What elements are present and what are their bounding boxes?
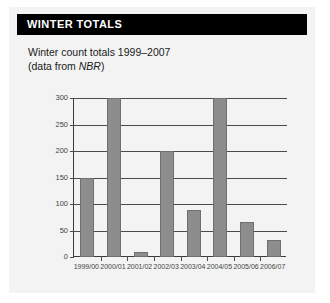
x-tick-mark (234, 256, 235, 261)
y-tick-label: 200 (55, 147, 68, 155)
x-tick-label: 2005/06 (233, 263, 258, 270)
x-tick-mark (127, 256, 128, 261)
x-tick-mark (260, 256, 261, 261)
y-tick-label: 50 (60, 227, 68, 235)
x-tick-label: 2000/01 (100, 263, 125, 270)
plot-frame: 050100150200250300 (73, 98, 286, 257)
bar-group (74, 98, 101, 257)
bar (160, 151, 174, 257)
bars-layer (74, 98, 287, 257)
figure-header-bar: WINTER TOTALS (17, 14, 307, 35)
bar (213, 98, 227, 257)
bar-group (181, 98, 208, 257)
bar-group (234, 98, 261, 257)
bar (134, 252, 148, 257)
caption-line-title: Winter count totals 1999–2007 (28, 45, 298, 59)
caption-source-name: NBR (79, 60, 101, 72)
figure-header-title: WINTER TOTALS (27, 18, 122, 30)
figure-panel: WINTER TOTALS Winter count totals 1999–2… (9, 7, 315, 293)
x-tick-label: 2004/05 (207, 263, 232, 270)
y-tick-label: 150 (55, 174, 68, 182)
y-tick-label: 0 (64, 253, 68, 261)
caption-source-suffix: ) (101, 60, 105, 72)
y-tick-label: 300 (55, 94, 68, 102)
y-tick-label: 250 (55, 121, 68, 129)
x-tick-label: 2003/04 (180, 263, 205, 270)
y-tick-mark (70, 257, 74, 258)
figure-caption: Winter count totals 1999–2007 (data from… (28, 45, 298, 73)
x-tick-mark (101, 256, 102, 261)
bar (187, 210, 201, 257)
y-tick-label: 100 (55, 200, 68, 208)
x-tick-label: 2001/02 (127, 263, 152, 270)
x-tick-label: 2002/03 (154, 263, 179, 270)
x-tick-mark (181, 256, 182, 261)
bar-group (207, 98, 234, 257)
bar (267, 240, 281, 257)
bar-group (127, 98, 154, 257)
x-tick-label: 1999/00 (74, 263, 99, 270)
bar (80, 178, 94, 258)
bar-group (154, 98, 181, 257)
bar-chart: 050100150200250300 1999/002000/012001/02… (28, 91, 300, 286)
x-tick-label: 2006/07 (260, 263, 285, 270)
bar (107, 98, 121, 257)
caption-source-prefix: (data from (28, 60, 79, 72)
x-tick-mark (207, 256, 208, 261)
bar-group (260, 98, 287, 257)
bar (240, 222, 254, 258)
caption-line-source: (data from NBR) (28, 59, 298, 73)
bar-group (101, 98, 128, 257)
x-tick-mark (154, 256, 155, 261)
